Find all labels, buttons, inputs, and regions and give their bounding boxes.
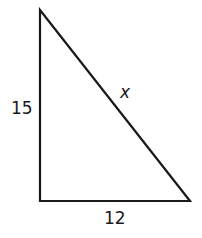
bottom-side-label: 12 [104, 210, 126, 227]
hypotenuse-label: x [120, 84, 130, 101]
right-triangle [40, 10, 190, 201]
triangle-figure [0, 0, 202, 238]
left-side-label: 15 [11, 100, 33, 117]
